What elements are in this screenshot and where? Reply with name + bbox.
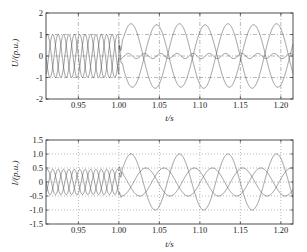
svg-text:-0.5: -0.5 xyxy=(30,191,43,201)
svg-text:1.05: 1.05 xyxy=(152,100,167,110)
svg-text:1: 1 xyxy=(39,30,43,40)
svg-text:0.95: 0.95 xyxy=(71,225,86,235)
current-plot-canvas: 0.951.001.051.101.151.20-1.5-1.0-0.500.5… xyxy=(0,126,307,252)
two-panel-waveform-figure: 0.951.001.051.101.151.20-2-1012 U/(p.u.)… xyxy=(0,0,307,252)
svg-text:-1.0: -1.0 xyxy=(30,205,43,215)
svg-text:-1: -1 xyxy=(36,73,43,83)
current-panel: 0.951.001.051.101.151.20-1.5-1.0-0.500.5… xyxy=(0,126,307,252)
svg-text:1.10: 1.10 xyxy=(192,225,207,235)
svg-text:0.95: 0.95 xyxy=(71,100,86,110)
svg-text:1.05: 1.05 xyxy=(152,225,167,235)
voltage-plot-canvas: 0.951.001.051.101.151.20-2-1012 xyxy=(0,0,307,126)
svg-text:1.20: 1.20 xyxy=(273,100,288,110)
svg-text:0: 0 xyxy=(39,51,43,61)
svg-text:0.5: 0.5 xyxy=(32,163,43,173)
svg-text:1.20: 1.20 xyxy=(273,225,288,235)
svg-text:1.15: 1.15 xyxy=(233,225,248,235)
svg-text:1.5: 1.5 xyxy=(32,135,43,145)
svg-text:1.10: 1.10 xyxy=(192,100,207,110)
svg-text:-2: -2 xyxy=(36,94,43,104)
svg-text:1.0: 1.0 xyxy=(32,149,43,159)
voltage-y-axis-label: U/(p.u.) xyxy=(10,23,20,83)
voltage-panel: 0.951.001.051.101.151.20-2-1012 U/(p.u.)… xyxy=(0,0,307,126)
svg-text:2: 2 xyxy=(39,8,43,18)
svg-text:0: 0 xyxy=(39,177,43,187)
svg-text:1.00: 1.00 xyxy=(111,100,126,110)
svg-text:-1.5: -1.5 xyxy=(30,219,43,229)
voltage-x-axis-label: t/s xyxy=(46,113,293,123)
svg-text:1.15: 1.15 xyxy=(233,100,248,110)
svg-text:1.00: 1.00 xyxy=(111,225,126,235)
current-y-axis-label: I/(p.u.) xyxy=(10,143,20,203)
current-x-axis-label: t/s xyxy=(46,239,293,249)
